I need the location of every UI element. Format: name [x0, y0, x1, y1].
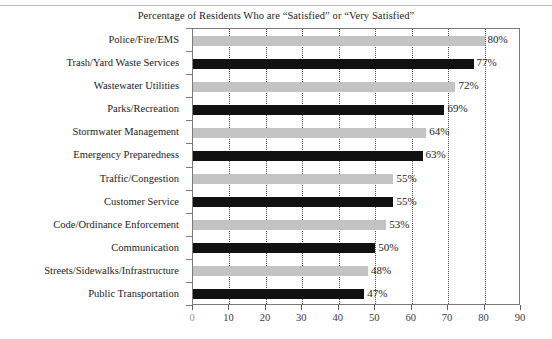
category-label: Trash/Yard Waste Services: [0, 57, 179, 68]
value-axis-label: 80: [469, 312, 499, 323]
category-label: Parks/Recreation: [0, 103, 179, 114]
bar-value-label: 50%: [378, 242, 398, 253]
category-label: Traffic/Congestion: [0, 173, 179, 184]
chart-title: Percentage of Residents Who are “Satisfi…: [0, 10, 552, 21]
category-label: Public Transportation: [0, 288, 179, 299]
value-axis-label: 60: [396, 312, 426, 323]
chart-figure: Percentage of Residents Who are “Satisfi…: [0, 0, 552, 339]
bar-value-label: 63%: [426, 149, 446, 160]
value-axis-label: 10: [213, 312, 243, 323]
value-axis-label: 90: [505, 312, 535, 323]
category-label: Customer Service: [0, 196, 179, 207]
value-axis-tick-20: [265, 305, 266, 310]
value-axis-tick-10: [228, 305, 229, 310]
bar-value-label: 69%: [447, 103, 467, 114]
value-axis-tick-90: [520, 305, 521, 310]
value-axis-tick-80: [484, 305, 485, 310]
bar-value-label: 80%: [488, 34, 508, 45]
value-axis-label: 0: [177, 312, 207, 323]
category-label: Streets/Sidewalks/Infrastructure: [0, 265, 179, 276]
value-axis-label: 20: [250, 312, 280, 323]
value-axis-tick-30: [301, 305, 302, 310]
value-axis-tick-70: [447, 305, 448, 310]
category-label: Wastewater Utilities: [0, 80, 179, 91]
value-axis-label: 40: [323, 312, 353, 323]
bar-value-label: 53%: [389, 219, 409, 230]
value-axis-tick-40: [338, 305, 339, 310]
value-axis: 0102030405060708090: [192, 305, 520, 339]
top-divider-rule: [0, 5, 552, 6]
bar-value-label: 55%: [396, 173, 416, 184]
bar-value-label: 48%: [371, 265, 391, 276]
category-axis: Police/Fire/EMSTrash/Yard Waste Services…: [0, 28, 192, 305]
value-axis-label: 70: [432, 312, 462, 323]
value-axis-tick-60: [411, 305, 412, 310]
value-axis-label: 30: [286, 312, 316, 323]
bar-value-label: 55%: [396, 196, 416, 207]
bar-value-label: 47%: [367, 288, 387, 299]
value-axis-tick-50: [374, 305, 375, 310]
category-label: Stormwater Management: [0, 126, 179, 137]
value-labels: 80%77%72%69%64%63%55%55%53%50%48%47%: [192, 28, 552, 305]
category-label: Code/Ordinance Enforcement: [0, 219, 179, 230]
category-label: Communication: [0, 242, 179, 253]
bar-value-label: 72%: [458, 80, 478, 91]
category-label: Police/Fire/EMS: [0, 34, 179, 45]
bar-value-label: 77%: [477, 57, 497, 68]
bar-value-label: 64%: [429, 126, 449, 137]
category-label: Emergency Preparedness: [0, 149, 179, 160]
value-axis-tick-0: [192, 305, 193, 310]
value-axis-label: 50: [359, 312, 389, 323]
